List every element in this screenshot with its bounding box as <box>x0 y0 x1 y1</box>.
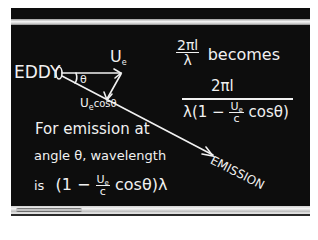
statement-is: is <box>34 178 44 193</box>
big-inner-denominator: c <box>234 113 240 124</box>
statement-line-2: angle θ, wavelength <box>34 149 166 162</box>
big-inner-sub: e <box>238 106 242 114</box>
component-cos: cosθ <box>94 98 117 109</box>
statement-line-3: is (1 − Ue c cosθ)λ <box>34 174 167 197</box>
becomes-word: becomes <box>208 45 280 64</box>
statement-inner-sub: e <box>105 179 109 187</box>
top-equation: 2πl λ becomes <box>176 38 280 67</box>
angle-arc <box>75 73 77 83</box>
component-label: Uecosθ <box>80 97 117 109</box>
velocity-symbol: U <box>110 47 122 66</box>
top-fraction-denominator: λ <box>183 53 191 67</box>
big-equation-numerator: 2πl <box>211 79 234 94</box>
top-fraction-numerator: 2πl <box>176 38 199 53</box>
velocity-label: Ue <box>110 49 127 65</box>
big-equation-denominator: λ(1 − Ue c cosθ) <box>183 101 289 124</box>
big-inner-fraction: Ue c <box>229 101 243 124</box>
statement-open: (1 − <box>55 175 90 194</box>
component-vector <box>107 74 121 99</box>
statement-suffix: cosθ)λ <box>115 175 167 194</box>
statement-line-1: For emission at <box>35 122 150 137</box>
big-denominator-prefix: λ(1 − <box>183 103 225 121</box>
angle-label: θ <box>80 74 87 85</box>
velocity-subscript: e <box>122 58 127 67</box>
statement-inner-denominator: c <box>100 186 106 197</box>
big-denominator-suffix: cosθ) <box>249 103 289 121</box>
component-subscript: e <box>89 103 94 112</box>
component-symbol: U <box>80 96 89 110</box>
eddy-label: EDDY <box>14 64 60 81</box>
top-fraction: 2πl λ <box>176 38 199 67</box>
statement-inner-fraction: Ue c <box>96 174 110 197</box>
